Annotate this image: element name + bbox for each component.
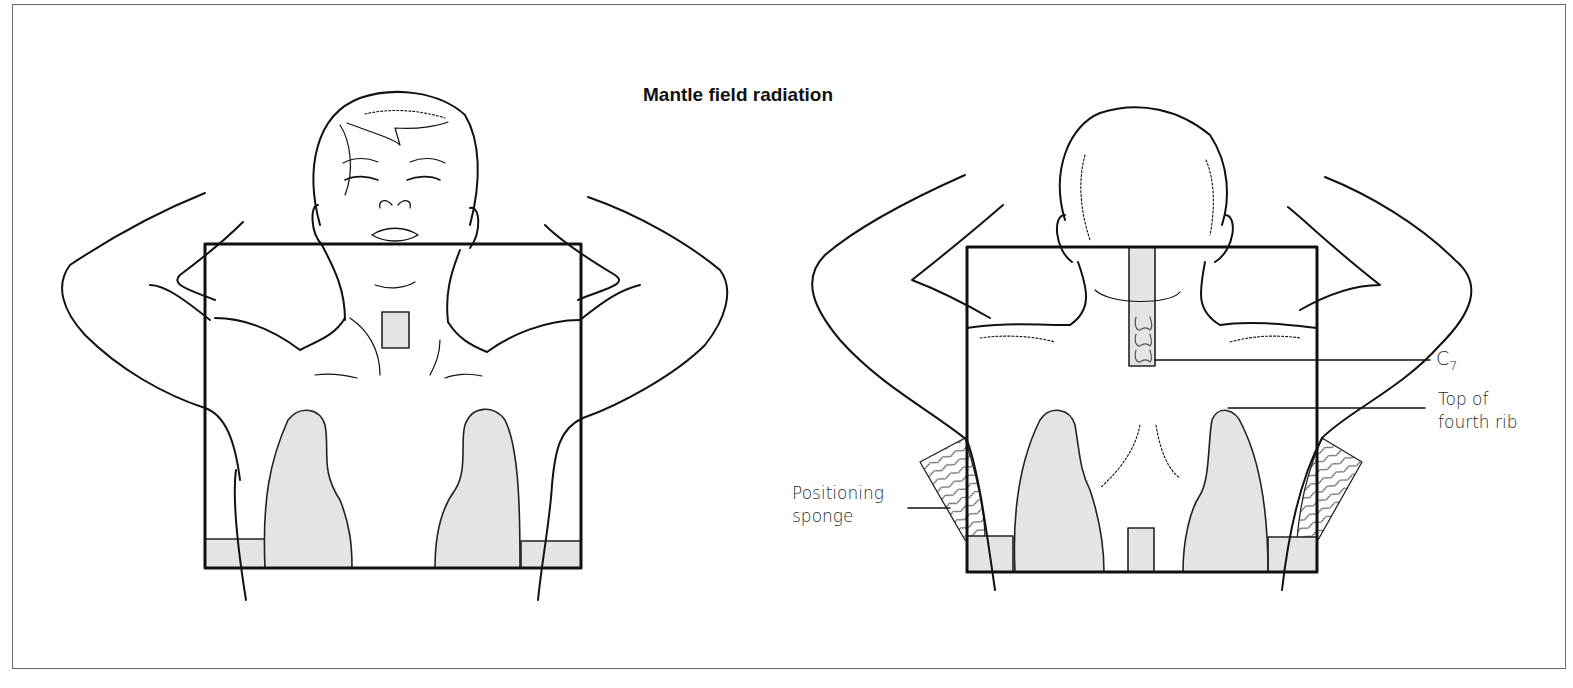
right-lower-shield: [1268, 537, 1317, 572]
posterior-view: [812, 107, 1471, 590]
right-lung-block: [435, 409, 520, 568]
fourth-rib-label-line1: Top of: [1438, 388, 1518, 411]
right-lower-shield: [521, 541, 581, 568]
anterior-view: [62, 92, 727, 600]
sponge-label-line2: sponge: [792, 505, 884, 528]
sponge-label-line1: Positioning: [792, 482, 884, 505]
figure-title: Mantle field radiation: [0, 84, 1476, 106]
spinal-block-lower: [1128, 528, 1154, 572]
c7-subscript: 7: [1449, 358, 1457, 373]
left-positioning-sponge: [920, 438, 985, 540]
left-lung-block: [1014, 410, 1104, 572]
right-positioning-sponge: [1297, 438, 1362, 540]
fourth-rib-label: Top of fourth rib: [1438, 388, 1518, 434]
left-lower-shield: [205, 539, 265, 568]
larynx-block: [382, 312, 409, 348]
c7-letter: C: [1436, 347, 1449, 369]
fourth-rib-label-line2: fourth rib: [1438, 411, 1518, 434]
positioning-sponge-label: Positioning sponge: [792, 482, 884, 528]
right-lung-block: [1183, 410, 1268, 572]
spinal-cord-block: [1129, 247, 1155, 366]
c7-label: C7: [1436, 347, 1458, 377]
left-lung-block: [264, 410, 352, 568]
